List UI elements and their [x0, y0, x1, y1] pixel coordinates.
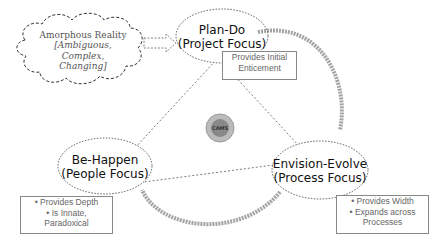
be-happen-note-tail: Paradoxical: [21, 218, 112, 229]
envision-to-be-arrow: [142, 190, 280, 224]
cloud-to-plan-arrow: [144, 34, 176, 52]
be-happen-note-item: Is Innate,: [21, 208, 112, 219]
cams-label: CAMS: [212, 125, 228, 131]
plan-do-label: Plan-Do (Project Focus): [176, 24, 268, 52]
cloud-label: Amorphous Reality [Ambiguous, Complex, C…: [38, 30, 128, 71]
envision-evolve-label: Envision-Evolve (Process Focus): [270, 158, 370, 186]
cloud-title: Amorphous Reality: [38, 30, 128, 40]
envision-evolve-note-item: Expands across: [337, 207, 428, 218]
plan-do-note: Provides Initial Enticement: [222, 51, 297, 80]
be-happen-title: Be-Happen: [58, 154, 152, 168]
cloud-subtitle-2: Changing]: [38, 61, 128, 71]
be-happen-note-item: Provides Depth: [21, 197, 112, 208]
plan-do-note-line1: Provides Initial: [223, 52, 296, 63]
envision-evolve-note-tail: Processes: [337, 217, 428, 228]
be-happen-label: Be-Happen (People Focus): [58, 154, 152, 182]
envision-evolve-note-item: Provides Width: [337, 196, 428, 207]
be-happen-note: Provides Depth Is Innate, Paradoxical: [20, 196, 113, 234]
envision-evolve-note: Provides Width Expands across Processes: [336, 195, 429, 234]
be-happen-focus: (People Focus): [58, 168, 152, 182]
envision-evolve-title: Envision-Evolve: [270, 158, 370, 172]
diagram-canvas: Amorphous Reality [Ambiguous, Complex, C…: [0, 0, 440, 249]
cloud-subtitle-1: [Ambiguous, Complex,: [38, 40, 128, 61]
envision-evolve-focus: (Process Focus): [270, 172, 370, 186]
plan-do-title: Plan-Do: [176, 24, 268, 38]
plan-do-focus: (Project Focus): [176, 38, 268, 52]
plan-do-note-line2: Enticement: [223, 63, 296, 74]
